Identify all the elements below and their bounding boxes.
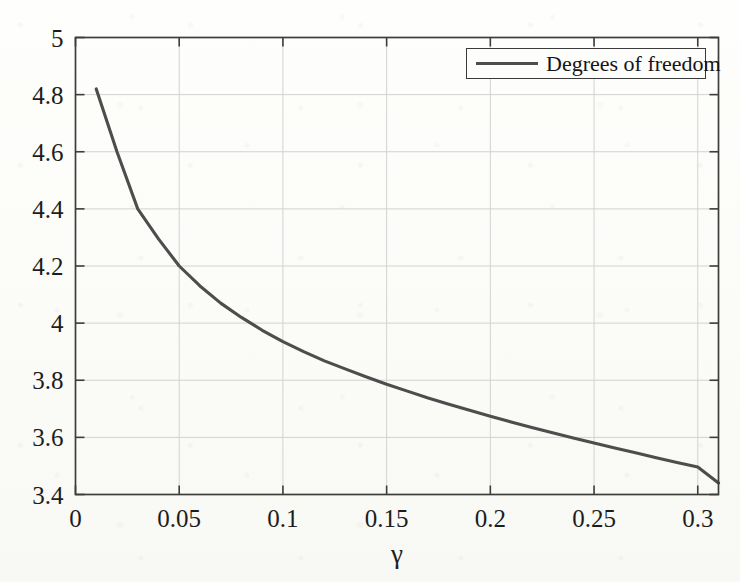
x-tick-label: 0.1: [267, 506, 298, 531]
x-axis-title: γ: [391, 539, 403, 570]
x-tick-label: 0: [69, 506, 82, 531]
y-tick-label: 4.6: [32, 139, 63, 164]
x-tick-label: 0.15: [365, 506, 409, 531]
data-series-line: [96, 89, 718, 483]
x-tick-label: 0.3: [682, 506, 713, 531]
y-tick-label: 3.4: [32, 482, 63, 507]
legend-line-swatch: [476, 62, 538, 65]
legend-entry-label: Degrees of freedom: [546, 51, 721, 77]
x-tick-label: 0.2: [475, 506, 506, 531]
plot-area: [0, 0, 740, 582]
legend: Degrees of freedom: [466, 48, 706, 79]
x-tick-label: 0.25: [572, 506, 616, 531]
y-tick-label: 4.8: [32, 82, 63, 107]
x-tick-label: 0.05: [157, 506, 201, 531]
y-tick-label: 4: [51, 311, 64, 336]
y-tick-label: 5: [51, 25, 64, 50]
y-tick-label: 4.2: [32, 254, 63, 279]
y-tick-label: 3.8: [32, 368, 63, 393]
y-tick-label: 4.4: [32, 196, 63, 221]
y-tick-label: 3.6: [32, 425, 63, 450]
horizontal-gridlines: [76, 38, 719, 495]
degrees-of-freedom-chart: 3.43.63.844.24.44.64.85 00.050.10.150.20…: [0, 0, 740, 582]
